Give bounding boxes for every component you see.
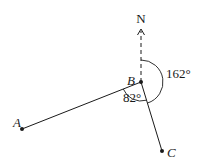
point-c (160, 149, 164, 153)
segment-bc (141, 82, 162, 151)
bearing-diagram: N A B C 162° 82° (0, 0, 200, 159)
diagram-canvas: N A B C 162° 82° (0, 0, 200, 159)
point-c-label: C (167, 145, 176, 159)
angle-162-label: 162° (166, 66, 191, 81)
north-label: N (136, 11, 146, 26)
point-a-label: A (12, 115, 21, 130)
angle-82-label: 82° (123, 90, 141, 105)
point-b (139, 80, 143, 84)
point-b-label: B (127, 73, 135, 88)
arc-bearing-162 (141, 60, 163, 103)
